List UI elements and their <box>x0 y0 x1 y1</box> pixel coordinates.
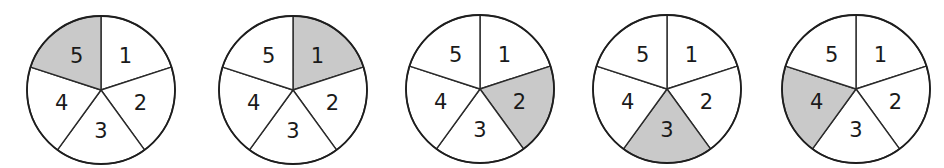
sector-label: 4 <box>247 91 260 115</box>
sector-label: 2 <box>889 90 902 114</box>
sector-label: 2 <box>513 90 526 114</box>
sector-label: 3 <box>473 118 486 142</box>
sector-label: 5 <box>636 43 649 67</box>
sector-label: 2 <box>134 91 147 115</box>
sector-label: 4 <box>55 91 68 115</box>
spinner-diagram: 1234512345123451234512345 <box>0 0 944 168</box>
sector-label: 4 <box>434 90 447 114</box>
sector-label: 1 <box>685 43 698 67</box>
spinner-5: 12345 <box>782 15 930 163</box>
sector-label: 3 <box>660 118 673 142</box>
sector-label: 1 <box>311 44 324 68</box>
sector-label: 5 <box>262 44 275 68</box>
sector-label: 4 <box>621 90 634 114</box>
sector-label: 3 <box>849 118 862 142</box>
spinner-2: 12345 <box>219 16 367 164</box>
spinners-group: 1234512345123451234512345 <box>27 15 930 164</box>
sector-label: 5 <box>449 43 462 67</box>
sector-label: 5 <box>825 43 838 67</box>
spinner-3: 12345 <box>406 15 554 163</box>
sector-label: 1 <box>874 43 887 67</box>
sector-label: 2 <box>700 90 713 114</box>
sector-label: 5 <box>70 44 83 68</box>
sector-label: 3 <box>94 119 107 143</box>
sector-label: 1 <box>119 44 132 68</box>
sector-label: 1 <box>498 43 511 67</box>
sector-label: 3 <box>286 119 299 143</box>
spinner-4: 12345 <box>593 15 741 163</box>
sector-label: 4 <box>810 90 823 114</box>
sector-label: 2 <box>326 91 339 115</box>
spinner-1: 12345 <box>27 16 175 164</box>
